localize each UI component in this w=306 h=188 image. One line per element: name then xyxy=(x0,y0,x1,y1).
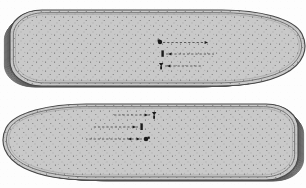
insole-drawing xyxy=(0,0,306,188)
insole-lower-body xyxy=(3,104,298,180)
insole-upper xyxy=(4,10,305,87)
insole-upper-body xyxy=(10,10,305,86)
drawing-canvas xyxy=(0,0,306,188)
